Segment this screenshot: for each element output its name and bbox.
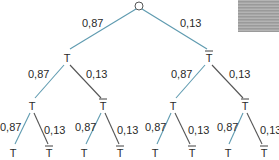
probability-tree: 0,87 0,13 T T 0,87 0,13 0,87 0,13 T T T … [0,0,279,160]
leaf-T: T [81,147,88,159]
node-T: T [29,100,36,112]
prob-label: 0,13 [188,124,209,136]
node-Tbar: T [100,100,107,112]
prob-label: 0,13 [117,124,138,136]
prob-label: 0,87 [171,68,192,80]
prob-label: 0,13 [229,68,250,80]
leaf-T: T [225,147,232,159]
edge-root-Tbar [142,9,207,49]
leaf-T: T [152,147,159,159]
prob-label: 0,13 [180,17,201,29]
edge-root-T [70,9,136,49]
prob-label: 0,87 [217,121,238,133]
prob-label: 0,13 [44,124,65,136]
prob-label: 0,87 [28,68,49,80]
node-Tbar: T [242,100,249,112]
node-T: T [170,100,177,112]
prob-label: 0,87 [82,17,103,29]
prob-label: 0,87 [0,121,21,133]
root-node-icon [135,2,143,10]
leaf-Tbar: T [261,147,268,159]
node-Tbar: T [206,52,213,64]
prob-label: 0,13 [86,68,107,80]
prob-label: 0,87 [145,121,166,133]
leaf-Tbar: T [117,147,124,159]
prob-label: 0,87 [75,121,96,133]
leaf-Tbar: T [46,147,53,159]
node-T: T [64,52,71,64]
prob-label: 0,13 [260,124,279,136]
leaf-T: T [10,147,17,159]
leaf-Tbar: T [189,147,196,159]
